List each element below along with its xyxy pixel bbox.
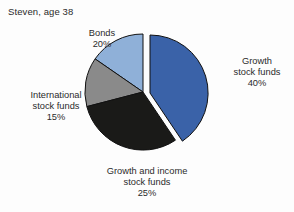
pie-label-bonds-name: Bonds — [89, 28, 115, 38]
pie-label-international-stock-funds: International stock funds 15% — [12, 90, 100, 124]
pie-label-growth-stock-funds-line2: stock funds — [233, 67, 280, 77]
pie-label-growth-stock-funds-line1: Growth — [242, 56, 272, 66]
pie-label-growth-and-income-stock-funds-line2: stock funds — [123, 177, 170, 187]
pie-label-international-stock-funds-percent: 15% — [12, 112, 100, 123]
pie-label-growth-stock-funds-percent: 40% — [222, 78, 292, 89]
pie-label-growth-and-income-stock-funds: Growth and income stock funds 25% — [74, 166, 220, 200]
pie-label-growth-stock-funds: Growth stock funds 40% — [222, 56, 292, 90]
pie-label-international-stock-funds-line1: International — [30, 90, 81, 100]
pie-chart-figure: Steven, age 38 Bonds 20% Growth stock fu… — [0, 0, 294, 212]
pie-label-international-stock-funds-line2: stock funds — [32, 101, 79, 111]
pie-label-growth-and-income-stock-funds-line1: Growth and income — [107, 166, 188, 176]
pie-label-bonds: Bonds 20% — [74, 28, 130, 50]
pie-label-growth-and-income-stock-funds-percent: 25% — [74, 188, 220, 199]
pie-label-bonds-percent: 20% — [74, 39, 130, 50]
